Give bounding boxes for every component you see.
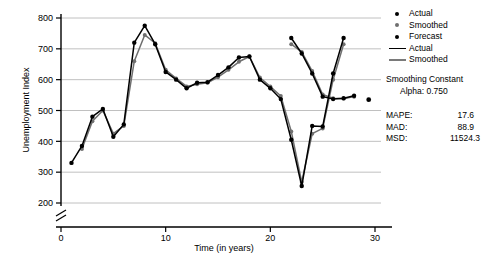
y-axis-ticks (56, 18, 61, 203)
gridlines (61, 18, 381, 203)
svg-text:300: 300 (38, 167, 53, 177)
y-axis-break-icon (56, 210, 66, 221)
smoothing-constant-heading: Smoothing Constant (386, 74, 498, 86)
accuracy-row-mape: MAPE: 17.6 (386, 110, 498, 122)
accuracy-row-mad: MAD: 88.9 (386, 122, 498, 134)
accuracy-key: MSD: (386, 133, 422, 145)
legend-item-actual-marker: Actual (386, 8, 498, 20)
accuracy-key: MAD: (386, 122, 422, 134)
svg-text:700: 700 (38, 44, 53, 54)
legend-label: Smoothed (408, 20, 448, 32)
legend-dot-icon (386, 35, 408, 39)
y-axis-title: Unemployment Index (21, 67, 31, 153)
x-tick-labels: 0102030 (58, 233, 380, 243)
smoothing-constant-block: Smoothing Constant Alpha: 0.750 (386, 74, 498, 97)
x-axis-ticks (61, 227, 375, 232)
smoothing-alpha-value: Alpha: 0.750 (386, 86, 498, 98)
series-forecast (366, 97, 371, 102)
legend-label: Actual (408, 43, 433, 55)
chart-legend: Actual Smoothed Forecast Actual Smoothed (386, 8, 498, 66)
svg-text:0: 0 (58, 233, 63, 243)
legend-dot-icon (386, 12, 408, 16)
legend-line-icon (386, 59, 408, 61)
legend-line-icon (386, 48, 408, 50)
svg-text:600: 600 (38, 75, 53, 85)
svg-text:500: 500 (38, 106, 53, 116)
legend-item-smoothed-line: Smoothed (386, 54, 498, 66)
chart-screenshot: 200300400500600700800 0102030 Time (in y… (0, 0, 498, 264)
legend-label: Forecast (408, 31, 442, 43)
svg-text:30: 30 (370, 233, 380, 243)
legend-label: Actual (408, 8, 433, 20)
accuracy-measures-block: MAPE: 17.6 MAD: 88.9 MSD: 11524.3 (386, 110, 498, 145)
legend-item-smoothed-marker: Smoothed (386, 20, 498, 32)
accuracy-key: MAPE: (386, 110, 422, 122)
accuracy-value: 17.6 (422, 110, 474, 122)
legend-label: Smoothed (408, 54, 448, 66)
y-tick-labels: 200300400500600700800 (38, 13, 53, 208)
legend-item-forecast-marker: Forecast (386, 31, 498, 43)
legend-item-actual-line: Actual (386, 43, 498, 55)
svg-text:400: 400 (38, 137, 53, 147)
svg-text:800: 800 (38, 13, 53, 23)
accuracy-value: 11524.3 (422, 133, 480, 145)
x-axis-title: Time (in years) (194, 243, 254, 253)
svg-text:20: 20 (265, 233, 275, 243)
accuracy-row-msd: MSD: 11524.3 (386, 133, 498, 145)
svg-text:10: 10 (161, 233, 171, 243)
svg-text:200: 200 (38, 198, 53, 208)
legend-dot-icon (386, 23, 408, 27)
series-actual (69, 24, 356, 189)
series-smoothed (80, 33, 356, 184)
accuracy-value: 88.9 (422, 122, 474, 134)
